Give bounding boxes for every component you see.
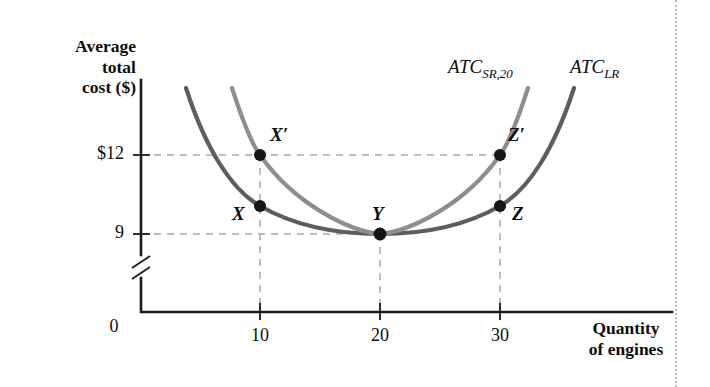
curve-label-atc-sr: ATCSR,20	[448, 56, 513, 82]
label-point-z-prime: Z′	[508, 124, 525, 146]
label-point-x: X	[232, 203, 245, 225]
x-axis	[141, 278, 672, 312]
curve-label-atc-sr-base: ATC	[448, 56, 482, 77]
x-tick-label-20: 20	[360, 325, 400, 346]
curve-label-atc-sr-sub: SR,20	[482, 66, 513, 81]
origin-label: 0	[100, 316, 128, 337]
point-z	[494, 200, 506, 212]
y-axis-title: Average total cost ($)	[24, 36, 136, 98]
x-tick-label-30: 30	[480, 325, 520, 346]
point-z-prime	[494, 149, 506, 161]
figure-container: Average total cost ($) Quantity of engin…	[0, 0, 710, 387]
x-axis-title: Quantity of engines	[556, 318, 696, 359]
label-point-z: Z	[512, 203, 524, 225]
curve-label-atc-lr-sub: LR	[604, 66, 619, 81]
axis-break-icon	[132, 256, 150, 279]
label-point-x-prime: X′	[270, 124, 288, 146]
curve-label-atc-lr-base: ATC	[570, 56, 604, 77]
point-x-prime	[254, 149, 266, 161]
y-tick-label-12: $12	[48, 143, 124, 164]
point-x	[254, 200, 266, 212]
curve-label-atc-lr: ATCLR	[570, 56, 619, 82]
label-point-y: Y	[372, 203, 384, 225]
y-tick-label-9: 9	[48, 222, 124, 243]
x-tick-label-10: 10	[240, 325, 280, 346]
point-y	[374, 228, 387, 241]
